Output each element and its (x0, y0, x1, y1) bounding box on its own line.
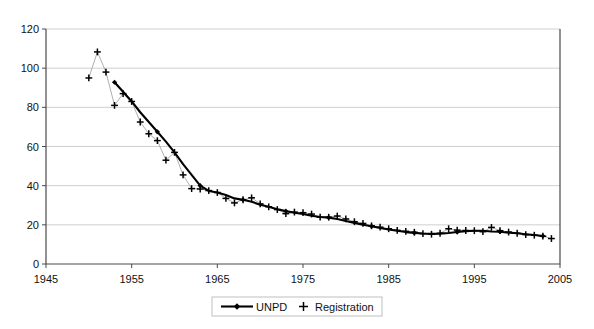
y-tick-label-120: 120 (21, 23, 39, 35)
y-tick-label-100: 100 (21, 62, 39, 74)
chart-container: 020406080100120 194519551965197519851995… (0, 0, 594, 329)
x-tick-label-1965: 1965 (205, 273, 229, 285)
y-tick-label-40: 40 (27, 180, 39, 192)
line-chart: 020406080100120 194519551965197519851995… (0, 0, 594, 329)
y-tick-label-20: 20 (27, 219, 39, 231)
x-tick-label-1975: 1975 (291, 273, 315, 285)
x-tick-label-1985: 1985 (376, 273, 400, 285)
y-tick-label-0: 0 (33, 258, 39, 270)
y-tick-label-60: 60 (27, 141, 39, 153)
x-tick-label-1945: 1945 (34, 273, 58, 285)
legend-label-unpd: UNPD (256, 301, 287, 313)
x-tick-label-1995: 1995 (462, 273, 486, 285)
legend-label-registration: Registration (315, 301, 374, 313)
x-tick-label-2005: 2005 (548, 273, 572, 285)
y-tick-label-80: 80 (27, 101, 39, 113)
x-tick-label-1955: 1955 (119, 273, 143, 285)
chart-legend: UNPD Registration (212, 297, 382, 316)
